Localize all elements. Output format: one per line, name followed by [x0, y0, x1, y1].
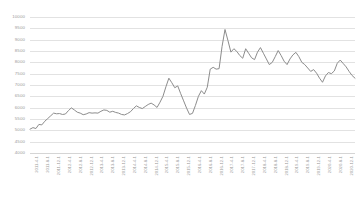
x-axis-tick-label: 2017-8-1: [241, 156, 245, 173]
x-axis-tick-label: 2013-4-1: [100, 156, 104, 173]
y-axis-tick-label: 6500: [15, 94, 25, 98]
x-axis-tick-label: 2019-4-1: [295, 156, 299, 173]
y-axis-tick-label: 8000: [15, 60, 25, 64]
x-axis-tick-label: 2018-12-1: [285, 156, 289, 176]
x-axis-tick-label: 2016-4-1: [198, 156, 202, 173]
x-axis-tick-label: 2017-12-1: [252, 156, 256, 176]
x-axis-tick-label: 2020-4-1: [328, 156, 332, 173]
y-axis-tick-label: 7500: [15, 71, 25, 75]
x-axis-tick-label: 2016-12-1: [220, 156, 224, 176]
x-axis-tick-label: 2016-8-1: [209, 156, 213, 173]
y-axis-tick-label: 5500: [15, 117, 25, 121]
y-axis-tick-label: 5000: [15, 128, 25, 132]
x-axis: 2011-4-12011-8-12011-12-12012-4-12012-8-…: [30, 154, 355, 206]
y-axis-tick-label: 8500: [15, 49, 25, 53]
line-chart: 1000095009000850080007500700065006000550…: [0, 0, 360, 206]
y-axis-tick-label: 9500: [15, 26, 25, 30]
x-axis-tick-label: 2019-12-1: [317, 156, 321, 176]
x-axis-tick-label: 2020-8-1: [339, 156, 343, 173]
x-axis-tick-label: 2014-8-1: [144, 156, 148, 173]
y-axis-tick-label: 7000: [15, 83, 25, 87]
x-axis-tick-label: 2011-8-1: [46, 156, 50, 173]
x-axis-tick-label: 2015-8-1: [176, 156, 180, 173]
x-axis-tick-label: 2014-4-1: [133, 156, 137, 173]
x-axis-tick-label: 2013-12-1: [122, 156, 126, 176]
y-axis-tick-label: 4000: [15, 151, 25, 155]
x-axis-tick-label: 2018-8-1: [274, 156, 278, 173]
x-axis-tick-label: 2012-4-1: [68, 156, 72, 173]
data-series-line: [30, 17, 355, 153]
x-axis-tick-label: 2017-4-1: [230, 156, 234, 173]
y-axis: 1000095009000850080007500700065006000550…: [0, 17, 28, 153]
y-axis-tick-label: 10000: [12, 15, 25, 19]
x-axis-tick-label: 2013-8-1: [111, 156, 115, 173]
x-axis-tick-label: 2015-12-1: [187, 156, 191, 176]
plot-area: [30, 17, 355, 153]
y-axis-tick-label: 4500: [15, 139, 25, 143]
y-axis-tick-label: 9000: [15, 37, 25, 41]
x-axis-tick-label: 2018-4-1: [263, 156, 267, 173]
x-axis-tick-label: 2020-12-1: [350, 156, 354, 176]
x-axis-tick-label: 2011-4-1: [35, 156, 39, 173]
x-axis-tick-label: 2011-12-1: [57, 156, 61, 175]
y-axis-tick-label: 6000: [15, 105, 25, 109]
x-axis-tick-label: 2015-4-1: [165, 156, 169, 173]
x-axis-tick-label: 2012-8-1: [79, 156, 83, 173]
x-axis-tick-label: 2019-8-1: [306, 156, 310, 173]
x-axis-tick-label: 2014-12-1: [155, 156, 159, 176]
x-axis-tick-label: 2012-12-1: [90, 156, 94, 176]
